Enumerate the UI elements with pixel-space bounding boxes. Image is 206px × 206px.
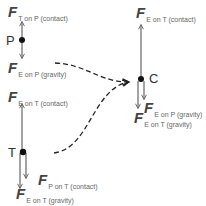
label-c-f-e-on-t-gravity: FE on T (gravity) <box>134 110 192 128</box>
point-p-label: P <box>6 34 15 47</box>
point-c-label: C <box>149 72 158 85</box>
point-c-dot <box>138 76 144 82</box>
label-f-e-on-p-gravity: FE on P (gravity) <box>8 60 66 78</box>
point-p-group <box>19 22 25 58</box>
point-c-group <box>138 25 144 108</box>
label-f-t-on-p-contact: FT on P (contact) <box>8 4 68 22</box>
point-t-dot <box>20 149 26 155</box>
label-c-f-e-on-t-contact: FE on T (contact) <box>136 5 196 23</box>
label-f-e-on-t-contact: FE on T (contact) <box>8 89 68 107</box>
point-t-label: T <box>8 146 16 159</box>
label-f-e-on-t-gravity: FE on T (gravity) <box>16 186 74 204</box>
point-p-dot <box>19 37 25 43</box>
point-t-group <box>20 104 26 188</box>
